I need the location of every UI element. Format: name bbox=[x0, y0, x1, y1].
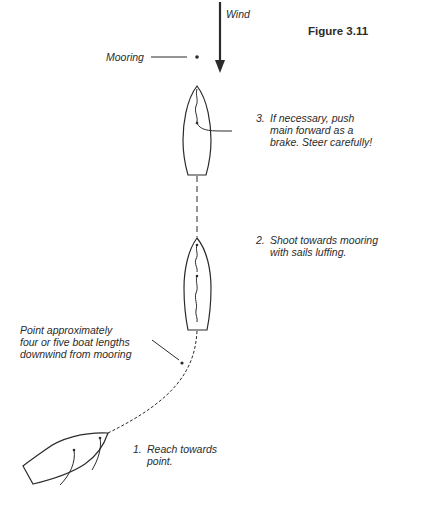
point-leader-line bbox=[152, 340, 179, 360]
point-line-3: downwind from mooring bbox=[20, 348, 131, 360]
wind-arrow-icon bbox=[215, 2, 225, 73]
step-3-number: 3. bbox=[256, 112, 265, 124]
wind-label: Wind bbox=[226, 8, 250, 20]
boat-3-icon bbox=[183, 86, 232, 175]
boat-1-icon bbox=[23, 433, 108, 485]
step-2-line-2: with sails luffing. bbox=[270, 246, 378, 258]
step-3-line-1: If necessary, push bbox=[270, 112, 372, 124]
figure-title: Figure 3.11 bbox=[308, 25, 368, 37]
boat-2-icon bbox=[184, 238, 211, 330]
figure-3-11-diagram: Wind Figure 3.11 Mooring 3. If necessary… bbox=[0, 0, 424, 505]
step-3-line-3: brake. Steer carefully! bbox=[270, 136, 372, 148]
point-annotation: Point approximately four or five boat le… bbox=[20, 324, 131, 360]
mooring-label: Mooring bbox=[106, 51, 144, 63]
step-3-line-2: main forward as a bbox=[270, 124, 372, 136]
step-2-number: 2. bbox=[256, 234, 265, 246]
step-1-number: 1. bbox=[133, 443, 142, 455]
step-1-line-1: Reach towards bbox=[147, 443, 217, 455]
point-line-2: four or five boat lengths bbox=[20, 336, 131, 348]
step-2-line-1: Shoot towards mooring bbox=[270, 234, 378, 246]
mooring-dot-icon bbox=[195, 55, 199, 59]
point-dot-icon bbox=[180, 361, 183, 364]
point-line-1: Point approximately bbox=[20, 324, 131, 336]
step-1-line-2: point. bbox=[147, 455, 217, 467]
